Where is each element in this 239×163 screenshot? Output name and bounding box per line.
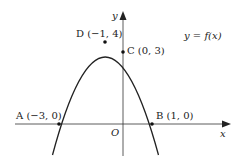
parabola-curve [53,57,159,155]
point-d-label: D (−1, 4) [76,28,123,39]
point-a-marker [57,122,61,126]
x-axis-label: x [220,128,226,139]
point-b-marker [150,122,154,126]
y-axis-label: y [111,10,118,21]
point-d-marker [103,40,107,44]
point-c-marker [121,50,125,54]
function-graph: A (−3, 0) B (1, 0) C (0, 3) D (−1, 4) y … [0,0,239,163]
point-c-label: C (0, 3) [127,45,165,56]
point-b-label: B (1, 0) [156,110,194,121]
y-axis-arrow-icon [120,11,127,20]
origin-label: O [111,127,119,138]
point-a-label: A (−3, 0) [15,110,62,121]
equation-label: y = f(x) [183,30,222,41]
x-axis-arrow-icon [222,121,231,128]
